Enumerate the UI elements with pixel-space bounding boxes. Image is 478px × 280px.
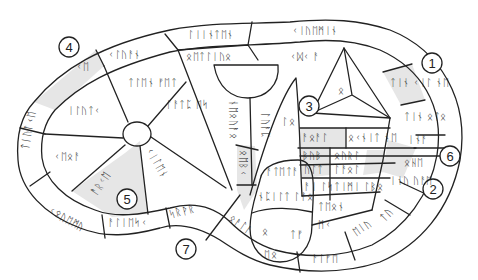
spoke (104, 66, 128, 122)
inscription-right-inner-5: ᚢᛚᛏ (304, 164, 324, 175)
inscription-left-rim-shaded: ᚲᛖ (76, 61, 89, 72)
inscription-vertical-2: ᛚᚢᚨᛈ (260, 112, 271, 138)
inscription-lobe-lower-left: ᛟ (262, 226, 269, 237)
inscription-bottom-rim-left: ᚲᛟᚢᛖᛗᚢ (47, 204, 86, 233)
inscription-vertical-shaded: ᛟᛖᛒᚲ (238, 150, 249, 176)
inscription-right-inner-3: ᛒᚢᛒ (302, 150, 322, 161)
bowl (214, 65, 278, 98)
liver-diagram: 1 2 3 4 5 6 7 ᛚᛁᛁᚾᛏᛖᚾ ᚲᛁᚢᛖᛗᛁᚾ ᚲᛖ ᚲᛚᚢᚨᚾ ᛟ… (0, 0, 478, 280)
inscription-bottom-rim-lobe: ᛖᛟ (264, 249, 277, 260)
rim-divider (345, 232, 355, 260)
callout-5: 5 (117, 189, 137, 209)
inscription-right-rim-shaded-1: ᛏᛁᚾ ᚲᛁᛚ ᚾᛖ (390, 77, 449, 88)
callout-6: 6 (440, 146, 460, 166)
inscription-right-inner-1: ᚨᛟᚨᛚ (302, 132, 328, 143)
inscription-lobe-upper: ᚨᛏᛖᛏᚨ (266, 166, 299, 177)
inscription-bottom-right-1: ᚨᛚᚠᛖ (312, 253, 338, 264)
center-boss (123, 122, 151, 146)
inscription-left-rim-side: ᛏᛁᚢᛚᚲᛖ (19, 110, 37, 150)
inscription-lobe-mid: ᚾᛈᛁᛚᛏ ᛚᚨᛟ (258, 191, 314, 202)
inscription-wedge-upper: ᛏᛚᛖᚾ ᚠᛖᛏ (128, 77, 177, 88)
callout-4: 4 (59, 37, 79, 57)
callout-1: 1 (422, 53, 442, 73)
inscription-wedge-lower-left: ᚲᛖᛟᚨ (54, 151, 80, 162)
inscription-right-rim-4: ᛟᚺᛖ (404, 157, 424, 168)
callout-3: 3 (299, 96, 319, 116)
rim-divider (165, 34, 178, 50)
inscription-pyramid-face: ᛟ (338, 85, 345, 96)
svg-text:5: 5 (123, 192, 130, 207)
inscription-lower-mid: ᛟᚨᛚᚨ (227, 213, 255, 237)
inscription-bottom-right-2: ᛖᛁᚢ (351, 217, 373, 237)
inscription-right-inner-4: ᛟᚢᚱᛚ (334, 150, 360, 161)
cone (250, 78, 302, 196)
inscription-right-rim-2: ᛏᛁᚾ ᛟᛏᛟ (404, 111, 447, 122)
rim-divider (30, 172, 50, 186)
shaded-region-4 (34, 50, 104, 110)
lobe-divider (252, 208, 312, 213)
callout-7: 7 (176, 239, 196, 259)
inscription-right-inner-7: ᛏᛁᛗᛁ ᛚᛒᛟ (334, 181, 383, 192)
spoke (45, 134, 123, 138)
inscription-wedge-center-right: ᚲᛁᛚᛖᚾ (144, 146, 170, 180)
inscription-wedge-middle: ᛚᚨᛏᛈ ᛖᛋ (166, 99, 209, 110)
svg-text:4: 4 (65, 40, 72, 55)
inscription-lobe-lower-right: ᛏᚠ (290, 229, 303, 240)
inscription-bottom-rim-mid: ᚨᛚᛁᛖᛋᚲ (108, 217, 147, 228)
inscription-right-rim-3: ᛁᚾᚨ (408, 134, 428, 145)
inscription-bottom-rim-mid2: ᛋᚱᚹᚱ (168, 203, 196, 220)
svg-text:3: 3 (305, 99, 312, 114)
svg-text:1: 1 (428, 56, 435, 71)
inscription-cone: ᛚᛟ (282, 116, 295, 127)
svg-text:6: 6 (446, 149, 453, 164)
inscription-vertical-1: ᚾᛖᛟᚢᚨᛟ (228, 100, 239, 139)
svg-text:7: 7 (182, 242, 189, 257)
band-edge (178, 50, 232, 190)
inscription-right-inner-10: ᛗᚲ (318, 219, 331, 230)
inscription-right-inner-6: ᛚᚨᛟᛚ (334, 164, 360, 175)
inscription-top-rim-2: ᚲᛁᚢᛖᛗᛁᚾ (292, 25, 338, 36)
shaded-region-6b (363, 150, 385, 175)
inscription-right-inner-9: ᛏᛖᛟᚾ (318, 201, 344, 212)
inscription-upper-mid-band: ᛟᛖᛏᛚᛁᚢᛟ (186, 51, 232, 62)
inscription-upper-left-band: ᚲᛚᚢᚨᚾ (108, 49, 141, 60)
inscription-right-inner-2: ᛟᚲᚾᛁᛏ ᚾᛖ (348, 132, 397, 143)
inscription-right-rim-shaded-2: ᛁᚾᚢ ᚢᚨᛖ (390, 175, 433, 186)
inscription-triangle-above: ᚲᛞᚲ ᚨ (290, 51, 320, 62)
rim-divider (248, 22, 252, 45)
inscription-wedge-left: ᛁᛚᚢᛏᚲ (68, 105, 101, 116)
inscription-top-rim-1: ᛚᛁᛁᚾᛏᛖᚾ (188, 29, 234, 40)
inscription-bottom-right-3: ᛏᚢ (378, 206, 395, 223)
